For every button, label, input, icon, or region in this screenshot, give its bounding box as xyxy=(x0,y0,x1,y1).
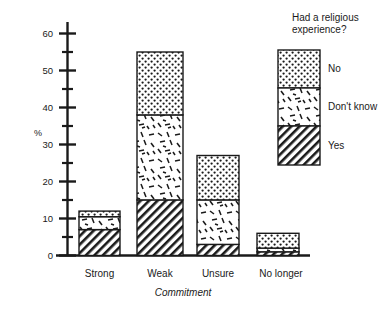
legend-title-line-2: experience? xyxy=(292,24,347,35)
bar-no-longer[interactable] xyxy=(257,233,299,255)
x-axis-title: Commitment xyxy=(155,287,213,298)
bar-segment-yes[interactable] xyxy=(79,230,120,256)
y-tick-label: 0 xyxy=(48,250,53,261)
x-tick-label-strong: Strong xyxy=(85,268,114,279)
y-tick-label: 60 xyxy=(42,28,53,39)
y-axis-tick-labels: 0 10 20 30 40 50 60 xyxy=(42,28,53,261)
bar-segment-dont-know[interactable] xyxy=(79,217,120,230)
x-tick-label-weak: Weak xyxy=(147,268,173,279)
bar-segment-no[interactable] xyxy=(197,156,239,200)
x-tick-label-no-longer: No longer xyxy=(259,268,303,279)
y-tick-label: 20 xyxy=(42,176,53,187)
bar-strong[interactable] xyxy=(79,211,120,255)
legend-swatch-no xyxy=(278,50,320,88)
bar-segment-dont-know[interactable] xyxy=(137,115,183,200)
bar-unsure[interactable] xyxy=(197,156,239,256)
y-tick-label: 30 xyxy=(42,139,53,150)
legend-label-dont-know: Don't know xyxy=(328,101,378,112)
y-tick-label: 10 xyxy=(42,213,53,224)
bar-weak[interactable] xyxy=(137,52,183,256)
y-tick-label: 40 xyxy=(42,102,53,113)
legend-swatch-dont-know xyxy=(278,88,320,126)
y-tick-label: 50 xyxy=(42,65,53,76)
bar-segment-no[interactable] xyxy=(257,233,299,248)
legend-label-yes: Yes xyxy=(328,140,344,151)
bar-segment-yes[interactable] xyxy=(197,244,239,255)
bar-segment-no[interactable] xyxy=(79,211,120,217)
bar-segment-dont-know[interactable] xyxy=(197,200,239,245)
legend-label-no: No xyxy=(328,63,341,74)
y-axis-title: % xyxy=(34,128,42,138)
x-tick-label-unsure: Unsure xyxy=(202,268,235,279)
bar-segment-no[interactable] xyxy=(137,52,183,115)
legend-title-line-1: Had a religious xyxy=(292,12,359,23)
legend-swatch-stack xyxy=(278,50,320,165)
bar-chart: 0 10 20 30 40 50 60 % xyxy=(0,0,391,310)
legend: Had a religious experience? No Don't kno… xyxy=(278,12,378,165)
x-axis-tick-labels: Strong Weak Unsure No longer xyxy=(85,268,304,279)
chart-canvas: 0 10 20 30 40 50 60 % xyxy=(0,0,391,310)
legend-swatch-yes xyxy=(278,126,320,165)
y-axis: 0 10 20 30 40 50 60 % xyxy=(34,22,76,261)
bar-segment-yes[interactable] xyxy=(137,200,183,256)
